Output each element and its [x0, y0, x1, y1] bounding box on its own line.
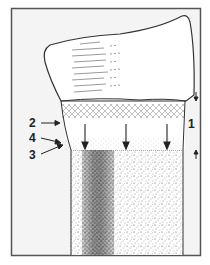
label-3: 3 — [29, 148, 36, 162]
label-2: 2 — [29, 116, 36, 130]
hatched-band — [62, 104, 185, 118]
stippled-column — [71, 150, 183, 255]
diagram-figure: 2 4 3 1 — [0, 0, 210, 265]
label-4: 4 — [29, 131, 36, 145]
label-1: 1 — [188, 117, 195, 131]
